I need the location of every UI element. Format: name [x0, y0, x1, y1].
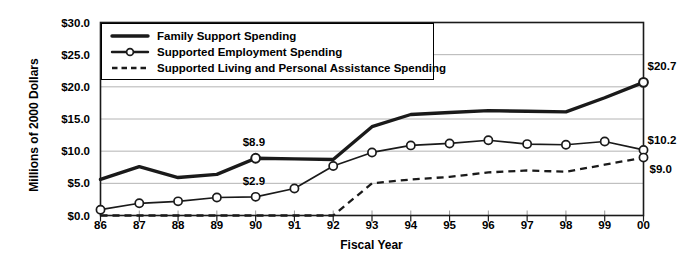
x-tick-label: 91 [276, 219, 312, 231]
x-tick-label: 86 [83, 219, 119, 231]
legend-label-supported-employment: Supported Employment Spending [157, 46, 342, 58]
x-tick-label: 93 [354, 219, 390, 231]
chart-legend: Family Support Spending Supported Employ… [101, 23, 434, 80]
legend-label-supported-living: Supported Living and Personal Assistance… [157, 62, 446, 74]
legend-label-family-support: Family Support Spending [157, 30, 296, 42]
x-tick-label: 90 [238, 219, 274, 231]
legend-swatch-line-circle-marker [110, 45, 150, 59]
x-tick-label: 96 [470, 219, 506, 231]
x-tick-label: 87 [121, 219, 157, 231]
data-point-annotation: $10.2 [648, 134, 677, 146]
x-tick-label: 99 [587, 219, 623, 231]
legend-item-supported-living: Supported Living and Personal Assistance… [110, 60, 433, 76]
x-tick-label: 88 [160, 219, 196, 231]
legend-item-supported-employment: Supported Employment Spending [110, 44, 433, 60]
data-point-annotation: $9.0 [650, 163, 672, 175]
data-point-annotation: $2.9 [243, 175, 265, 187]
chart-figure: Millions of 2000 Dollars $0.0$5.0$10.0$1… [0, 0, 683, 264]
x-axis-title: Fiscal Year [100, 238, 643, 252]
x-tick-label: 94 [393, 219, 429, 231]
x-tick-label: 89 [199, 219, 235, 231]
x-tick-label: 98 [548, 219, 584, 231]
x-tick-label: 95 [432, 219, 468, 231]
legend-swatch-dashed-line [110, 61, 150, 75]
legend-swatch-solid-thick-line [110, 29, 150, 43]
data-point-annotation: $20.7 [648, 60, 677, 72]
x-tick-label: 00 [626, 219, 662, 231]
legend-item-family-support: Family Support Spending [110, 28, 433, 44]
data-point-annotation: $8.9 [243, 136, 265, 148]
x-tick-label: 97 [509, 219, 545, 231]
x-tick-label: 92 [315, 219, 351, 231]
